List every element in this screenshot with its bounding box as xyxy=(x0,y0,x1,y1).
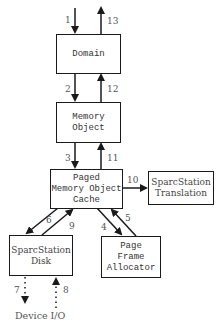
edge-label-6: 6 xyxy=(46,215,52,225)
domain-label: Domain xyxy=(72,49,104,60)
edge-label-11: 11 xyxy=(107,153,118,163)
memory-object-label: Memory Object xyxy=(72,112,104,134)
edge-label-5: 5 xyxy=(125,213,131,223)
edge-label-2: 2 xyxy=(65,84,71,94)
edge-label-12: 12 xyxy=(107,84,118,94)
edge-label-13: 13 xyxy=(107,16,118,26)
edge-label-4: 4 xyxy=(101,222,107,232)
sparcstation-translation-box: SparcStation Translation xyxy=(148,171,214,205)
edge-label-8: 8 xyxy=(63,285,69,295)
edge-label-1: 1 xyxy=(65,15,71,25)
edge-6-arrow xyxy=(27,208,58,233)
page-frame-allocator-box: Page Frame Allocator xyxy=(101,236,161,278)
edge-label-10: 10 xyxy=(127,175,138,185)
edge-label-9: 9 xyxy=(69,221,75,231)
translation-label: SparcStation Translation xyxy=(151,177,211,199)
sparcstation-disk-box: SparcStation Disk xyxy=(9,235,73,276)
edge-label-7: 7 xyxy=(14,285,20,295)
edge-label-3: 3 xyxy=(65,153,71,163)
domain-box: Domain xyxy=(56,34,121,74)
disk-label: SparcStation Disk xyxy=(11,245,71,267)
allocator-label: Page Frame Allocator xyxy=(107,241,156,274)
edge-5-arrow xyxy=(112,210,136,236)
paged-memory-object-cache-box: Paged Memory Object Cache xyxy=(50,169,123,209)
device-io-label: Device I/O xyxy=(15,311,65,321)
paged-cache-label: Paged Memory Object Cache xyxy=(51,173,121,206)
memory-object-box: Memory Object xyxy=(56,102,121,143)
